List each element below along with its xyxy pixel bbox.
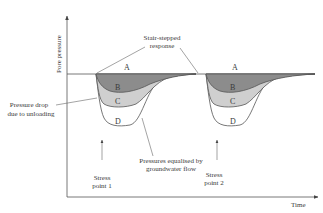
stress-point-2-line1: Stress [206, 171, 223, 179]
zone-c-label: C [230, 97, 235, 106]
zone-b-label: B [115, 83, 120, 92]
zone-d-label: D [230, 117, 236, 126]
equalised-label-line1: Pressures equalised by [139, 157, 203, 165]
zone-a-label: A [124, 63, 130, 72]
zone-b-label: B [230, 83, 235, 92]
stress-point-2-line2: point 2 [204, 179, 224, 187]
stair-stepped-label-line1: Stair-stepped [144, 34, 181, 42]
zone-a-label: A [232, 63, 238, 72]
pressure-drop-label-line2: due to unloading [7, 110, 55, 118]
zone-c-label: C [115, 97, 120, 106]
stress-point-1-line2: point 1 [92, 182, 112, 190]
pore-pressure-diagram: Pore pressure Time A B C D A B C D Stair… [0, 0, 323, 213]
pressure-drop-leader [56, 98, 97, 105]
stair-stepped-label-line2: response [150, 42, 175, 50]
stress-point-1-line1: Stress [94, 174, 111, 182]
stair-stepped-leader-1 [97, 47, 145, 73]
response-event-2: A B C D [196, 63, 315, 126]
response-event-1: A B C D [96, 63, 196, 126]
y-axis-label: Pore pressure [55, 35, 63, 73]
stair-stepped-leader-2 [180, 48, 198, 73]
equalised-label-line2: groundwater flow [146, 165, 197, 173]
x-axis-label: Time [291, 201, 306, 209]
zone-d-label: D [115, 117, 121, 126]
equalised-leader [142, 118, 153, 156]
pressure-drop-label-line1: Pressure drop [10, 101, 49, 109]
